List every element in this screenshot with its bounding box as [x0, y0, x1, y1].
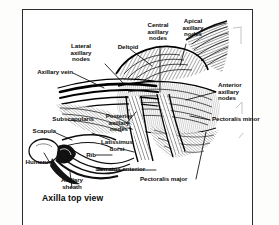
label-axillary-sheath: Axillary sheath — [50, 177, 94, 190]
label-serratus-anterior: Serratus anterior — [96, 166, 158, 173]
label-anterior-axillary-nodes: Anterior axillary nodes — [218, 82, 266, 102]
label-pectoralis-minor: Pectoralis minor — [212, 116, 274, 123]
figure-title: Axilla top view — [42, 193, 103, 203]
label-axillary-vein: Axillary vein — [25, 69, 73, 76]
label-pectoralis-major: Pectoralis major — [140, 176, 206, 183]
label-subscapularis: Subscapularis — [42, 116, 94, 123]
label-latissimus-dorsi: Latissimus dorsi — [94, 139, 140, 152]
label-deltoid: Deltoid — [110, 44, 146, 51]
label-rib: Rib — [78, 152, 96, 159]
label-humerus: Humerus — [14, 159, 52, 166]
label-apical-axillary-nodes: Apical axillary nodes — [172, 18, 214, 38]
label-posterior-axillary-nodes: Posterior axillary nodes — [96, 113, 142, 133]
anatomy-figure: Lateral axillary nodes Central axillary … — [0, 0, 279, 225]
label-lateral-axillary-nodes: Lateral axillary nodes — [58, 43, 104, 63]
label-scapula: Scapula — [20, 128, 56, 135]
